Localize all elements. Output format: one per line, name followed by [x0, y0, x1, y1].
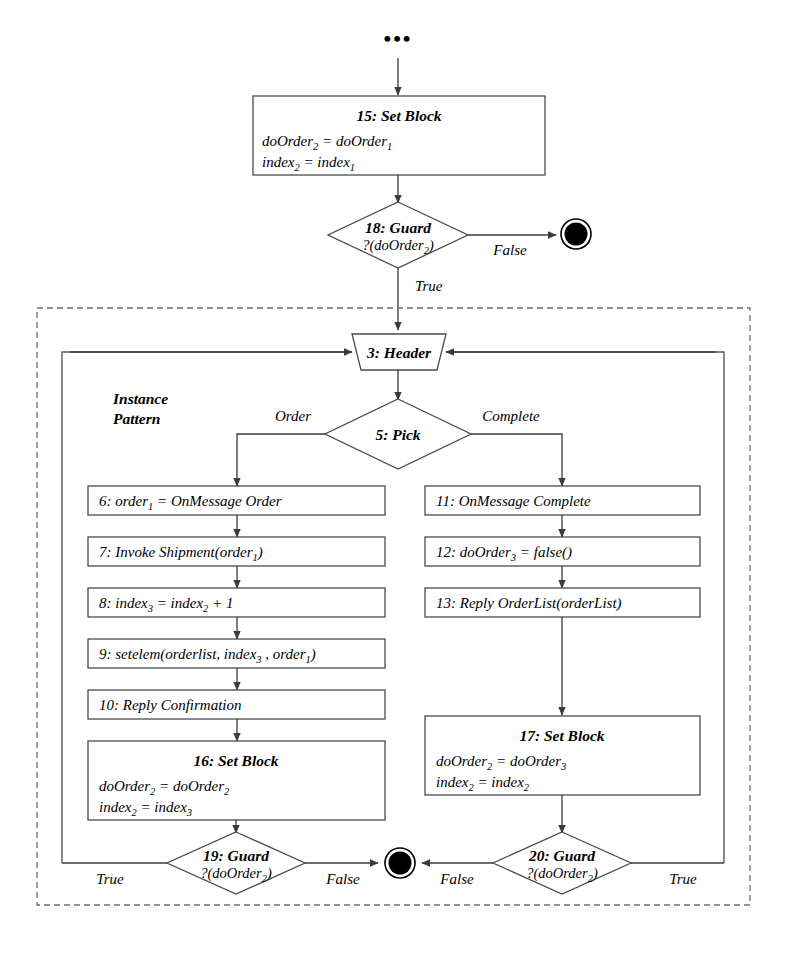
- flowchart-canvas: ••• 15: Set Block doOrder2 = doOrder1 in…: [0, 0, 797, 960]
- node-3-title: 3: Header: [366, 344, 432, 361]
- edge-label-20-true: True: [669, 871, 697, 887]
- node-19-title: 19: Guard: [203, 847, 269, 864]
- final-node-bottom[interactable]: [389, 852, 412, 875]
- edge-label-pick-complete: Complete: [482, 408, 540, 424]
- node-5-title: 5: Pick: [375, 426, 420, 443]
- edge-label-18-false: False: [492, 242, 527, 258]
- node-18-title: 18: Guard: [365, 219, 431, 236]
- final-node-top[interactable]: [565, 223, 588, 246]
- ellipsis-marker: •••: [383, 26, 412, 51]
- edge-label-pick-order: Order: [275, 408, 311, 424]
- node-17-title: 17: Set Block: [519, 727, 604, 744]
- group-label-line-1: Instance: [112, 390, 168, 407]
- edge-label-18-true: True: [415, 278, 443, 294]
- node-16-title: 16: Set Block: [193, 752, 278, 769]
- group-label-line-2: Pattern: [113, 410, 160, 427]
- node-13-label: 13: Reply OrderList(orderList): [436, 595, 622, 612]
- edge-label-20-false: False: [439, 871, 474, 887]
- node-20-title: 20: Guard: [528, 847, 595, 864]
- node-10-label: 10: Reply Confirmation: [99, 697, 242, 713]
- edge-pick-order: [237, 434, 325, 486]
- activity-diagram: ••• 15: Set Block doOrder2 = doOrder1 in…: [0, 0, 797, 960]
- node-11-label: 11: OnMessage Complete: [436, 493, 591, 509]
- edge-pick-complete: [471, 434, 562, 486]
- edge-label-19-true: True: [96, 871, 124, 887]
- node-15-title: 15: Set Block: [356, 107, 441, 124]
- edge-label-19-false: False: [325, 871, 360, 887]
